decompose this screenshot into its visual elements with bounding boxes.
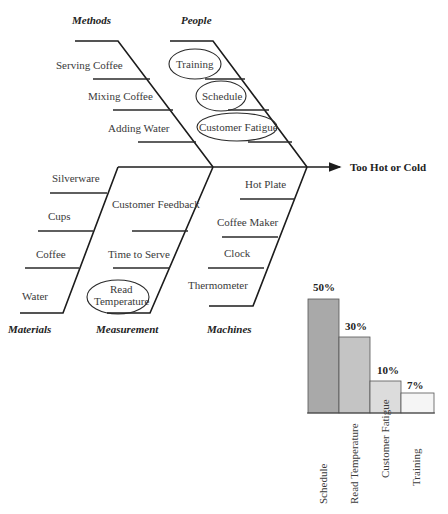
bone-people: Training Schedule Customer Fatigue (169, 41, 307, 167)
cause-water: Water (22, 290, 48, 302)
category-label-materials: Materials (7, 323, 51, 335)
category-label-people: People (181, 14, 212, 26)
category-label-machines: Machines (206, 323, 252, 335)
cause-mixing-coffee: Mixing Coffee (88, 90, 153, 102)
value-label-schedule: 50% (313, 281, 335, 293)
cause-clock: Clock (224, 247, 251, 259)
category-label-measurement: Measurement (95, 323, 159, 335)
category-label-methods: Methods (71, 14, 111, 26)
category-label-customer-fatigue: Customer Fatigue (379, 399, 391, 478)
bone-measurement: Customer Feedback Time to Serve Read Tem… (87, 167, 213, 314)
fishbone-diagram: Too Hot or Cold Methods People Materials… (0, 0, 448, 514)
cause-schedule: Schedule (202, 90, 242, 102)
cause-hot-plate: Hot Plate (245, 178, 286, 190)
cause-read-temperature-line2: Temperature (94, 295, 150, 307)
category-label-read-temperature: Read Temperature (348, 423, 360, 504)
effect-label: Too Hot or Cold (350, 161, 426, 173)
cause-read-temperature-line1: Read (110, 283, 133, 295)
value-label-read-temperature: 30% (345, 320, 367, 332)
value-label-customer-fatigue: 10% (377, 364, 399, 376)
cause-customer-fatigue: Customer Fatigue (199, 121, 278, 133)
cause-coffee: Coffee (36, 248, 66, 260)
cause-time-to-serve: Time to Serve (108, 248, 170, 260)
bar-training (401, 393, 434, 413)
bone-machines: Hot Plate Coffee Maker Clock Thermometer (188, 167, 307, 306)
cause-training: Training (176, 58, 214, 70)
category-label-schedule: Schedule (317, 464, 329, 504)
pareto-bar-chart: 50% 30% 10% 7% Schedule Read Temperature… (307, 281, 435, 504)
cause-thermometer: Thermometer (188, 279, 248, 291)
cause-coffee-maker: Coffee Maker (217, 216, 279, 228)
bar-schedule (308, 299, 339, 413)
cause-serving-coffee: Serving Coffee (56, 59, 123, 71)
value-label-training: 7% (407, 379, 424, 391)
cause-customer-feedback: Customer Feedback (112, 198, 200, 210)
bone-materials: Silverware Cups Coffee Water (20, 167, 118, 313)
cause-cups: Cups (48, 210, 71, 222)
cause-silverware: Silverware (52, 172, 100, 184)
category-label-training: Training (410, 448, 422, 486)
cause-adding-water: Adding Water (108, 122, 170, 134)
bar-read-temperature (339, 337, 370, 413)
